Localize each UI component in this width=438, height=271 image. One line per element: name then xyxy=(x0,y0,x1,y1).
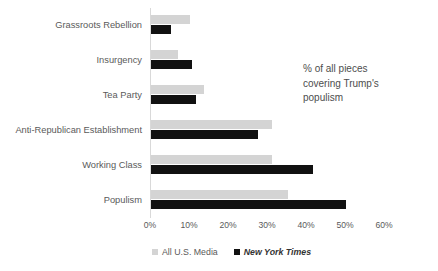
legend-item-all-us-media[interactable]: All U.S. Media xyxy=(152,247,218,257)
legend-label: All U.S. Media xyxy=(162,247,218,257)
bar-new-york-times xyxy=(151,130,258,139)
category-label: Anti-Republican Establishment xyxy=(0,125,142,136)
axis-tick-label: 50% xyxy=(336,219,353,231)
bar-new-york-times xyxy=(151,165,313,174)
bar-new-york-times xyxy=(151,95,196,104)
bar-all-us-media xyxy=(151,120,272,129)
annotation-line: populism xyxy=(303,91,428,106)
bar-all-us-media xyxy=(151,50,178,59)
axis-tick-label: 0% xyxy=(144,219,156,231)
legend-label: New York Times xyxy=(244,247,311,257)
category-label: Working Class xyxy=(0,160,142,171)
axis-tick-label: 10% xyxy=(180,219,197,231)
axis-tick-label: 30% xyxy=(258,219,275,231)
axis-tick-label: 40% xyxy=(297,219,314,231)
legend-swatch-icon xyxy=(234,249,240,255)
category-label: Insurgency xyxy=(0,55,142,66)
chart-legend: All U.S. Media New York Times xyxy=(152,245,311,259)
annotation-line: covering Trump's xyxy=(303,77,428,92)
category-label: Populism xyxy=(0,195,142,206)
legend-swatch-icon xyxy=(152,249,158,255)
bar-new-york-times xyxy=(151,60,192,69)
chart-annotation: % of all pieces covering Trump's populis… xyxy=(303,62,428,106)
bar-all-us-media xyxy=(151,155,272,164)
bar-new-york-times xyxy=(151,25,171,34)
axis-tick-label: 20% xyxy=(219,219,236,231)
bar-all-us-media xyxy=(151,15,190,24)
bar-new-york-times xyxy=(151,200,346,209)
category-axis-labels: Grassroots Rebellion Insurgency Tea Part… xyxy=(0,8,146,218)
plot-area xyxy=(150,8,386,218)
bar-chart: Grassroots Rebellion Insurgency Tea Part… xyxy=(0,0,438,271)
value-axis-ticks: 0% 10% 20% 30% 40% 50% 60% xyxy=(150,219,390,235)
category-label: Tea Party xyxy=(0,90,142,101)
category-label: Grassroots Rebellion xyxy=(0,20,142,31)
value-axis-line xyxy=(150,8,151,218)
bar-all-us-media xyxy=(151,190,288,199)
legend-item-new-york-times[interactable]: New York Times xyxy=(234,247,311,257)
annotation-line: % of all pieces xyxy=(303,62,428,77)
bar-all-us-media xyxy=(151,85,204,94)
axis-tick-label: 60% xyxy=(375,219,392,231)
